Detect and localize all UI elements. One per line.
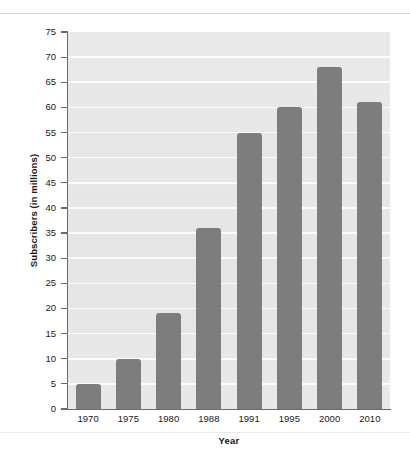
- y-axis-tick-label: 75: [16, 26, 56, 37]
- y-axis-tick-label: 15: [16, 328, 56, 339]
- bar: [196, 228, 221, 409]
- y-axis-tick: [61, 408, 67, 409]
- y-axis-tick: [61, 182, 67, 183]
- y-axis-tick-label: 35: [16, 227, 56, 238]
- y-axis-tick-label: 20: [16, 302, 56, 313]
- x-axis-title: Year: [68, 435, 390, 446]
- plot-area: [68, 32, 390, 409]
- y-axis-tick: [61, 232, 67, 233]
- bar: [317, 67, 342, 409]
- y-axis-tick-label: 55: [16, 127, 56, 138]
- y-axis-tick-label: 5: [16, 378, 56, 389]
- bar: [237, 133, 262, 409]
- x-axis-tick-label: 2010: [346, 413, 394, 424]
- bar: [156, 313, 181, 409]
- bar-chart-figure: Subscribers (in millions) 05101520253035…: [0, 0, 410, 462]
- y-axis-tick-label: 40: [16, 202, 56, 213]
- bar: [116, 359, 141, 409]
- y-axis-tick: [61, 82, 67, 83]
- y-axis-tick: [61, 333, 67, 334]
- bar: [76, 384, 101, 409]
- page-top-rule: [0, 13, 410, 14]
- bar: [277, 107, 302, 409]
- y-axis-tick: [61, 283, 67, 284]
- gridline: [68, 56, 390, 58]
- x-axis-line: [67, 409, 391, 410]
- y-axis-tick: [61, 57, 67, 58]
- y-axis-tick-label: 50: [16, 152, 56, 163]
- y-axis-tick-label: 30: [16, 252, 56, 263]
- y-axis-tick-label: 60: [16, 101, 56, 112]
- y-axis-tick-label: 70: [16, 51, 56, 62]
- y-axis-tick-label: 10: [16, 353, 56, 364]
- y-axis-tick-label: 65: [16, 76, 56, 87]
- y-axis-line: [67, 31, 68, 410]
- bar: [357, 102, 382, 409]
- y-axis-tick-label: 25: [16, 277, 56, 288]
- y-axis-tick: [61, 107, 67, 108]
- y-axis-tick: [61, 157, 67, 158]
- y-axis-tick: [61, 383, 67, 384]
- y-axis-tick-label: 0: [16, 403, 56, 414]
- y-axis-tick: [61, 308, 67, 309]
- y-axis-tick: [61, 132, 67, 133]
- page-bottom-rule: [0, 432, 410, 433]
- y-axis-tick: [61, 207, 67, 208]
- y-axis-tick: [61, 258, 67, 259]
- y-axis-tick: [61, 358, 67, 359]
- y-axis-tick: [61, 31, 67, 32]
- y-axis-tick-label: 45: [16, 177, 56, 188]
